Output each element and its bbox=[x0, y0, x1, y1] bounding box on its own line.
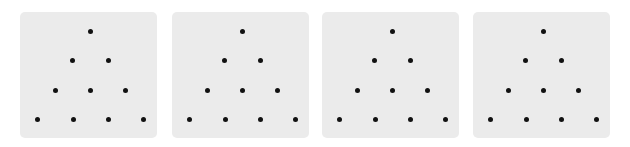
dot bbox=[337, 117, 342, 122]
dot bbox=[106, 58, 111, 63]
dot bbox=[408, 117, 413, 122]
dot bbox=[141, 117, 146, 122]
dot-triangle-panel-3 bbox=[322, 12, 459, 138]
dot bbox=[205, 88, 210, 93]
dot bbox=[524, 117, 529, 122]
dot bbox=[240, 88, 245, 93]
dot bbox=[88, 88, 93, 93]
dot bbox=[187, 117, 192, 122]
dot bbox=[576, 88, 581, 93]
dot bbox=[106, 117, 111, 122]
dot bbox=[443, 117, 448, 122]
dot bbox=[275, 88, 280, 93]
dot bbox=[88, 29, 93, 34]
dot bbox=[425, 88, 430, 93]
dot-triangle-panel-1 bbox=[20, 12, 157, 138]
dot bbox=[123, 88, 128, 93]
dot bbox=[559, 117, 564, 122]
dot bbox=[594, 117, 599, 122]
dot bbox=[523, 58, 528, 63]
dot bbox=[355, 88, 360, 93]
dot bbox=[258, 117, 263, 122]
dot bbox=[541, 29, 546, 34]
dot bbox=[53, 88, 58, 93]
dot bbox=[71, 117, 76, 122]
dot bbox=[506, 88, 511, 93]
dot bbox=[293, 117, 298, 122]
dot bbox=[222, 58, 227, 63]
dot bbox=[240, 29, 245, 34]
dot bbox=[559, 58, 564, 63]
dot bbox=[372, 58, 377, 63]
dot-triangle-panel-2 bbox=[172, 12, 309, 138]
dot bbox=[390, 29, 395, 34]
dot bbox=[408, 58, 413, 63]
dot bbox=[488, 117, 493, 122]
dot bbox=[223, 117, 228, 122]
dot bbox=[70, 58, 75, 63]
dot-triangle-panel-4 bbox=[473, 12, 610, 138]
dot bbox=[373, 117, 378, 122]
dot bbox=[258, 58, 263, 63]
dot bbox=[390, 88, 395, 93]
dot bbox=[35, 117, 40, 122]
dot bbox=[541, 88, 546, 93]
